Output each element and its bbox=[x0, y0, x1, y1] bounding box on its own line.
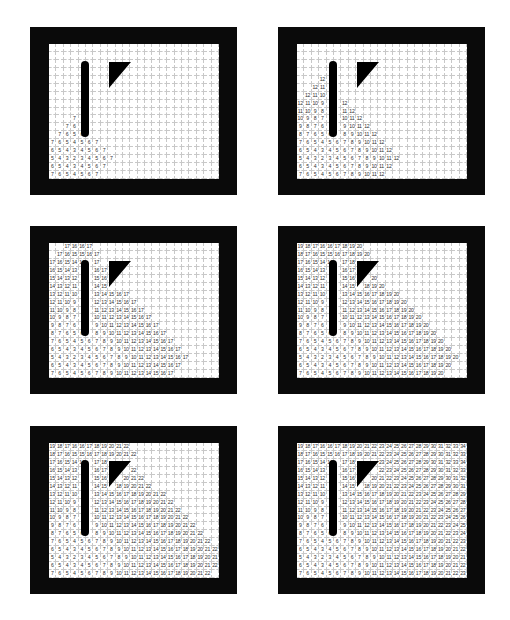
grid-cell bbox=[175, 499, 182, 507]
grid-cell: 6 bbox=[71, 322, 78, 330]
grid-cell: 10 bbox=[319, 291, 326, 299]
grid-cell bbox=[182, 131, 189, 139]
grid-cell bbox=[167, 443, 174, 451]
grid-cell: 11 bbox=[371, 538, 378, 546]
obstacle-bar bbox=[329, 61, 337, 137]
grid-cell: 5 bbox=[319, 330, 326, 338]
grid-cell bbox=[197, 52, 204, 60]
grid-cell bbox=[204, 483, 211, 491]
grid-cell: 16 bbox=[312, 251, 319, 259]
grid-cell bbox=[86, 44, 93, 52]
grid-cell bbox=[93, 115, 100, 123]
grid-cell: 22 bbox=[130, 451, 137, 459]
grid-cell: 10 bbox=[116, 338, 123, 346]
grid-cell: 19 bbox=[408, 314, 415, 322]
grid-cell: 11 bbox=[386, 354, 393, 362]
grid-cell bbox=[101, 259, 108, 267]
grid-cell: 19 bbox=[437, 562, 444, 570]
grid-cell bbox=[445, 131, 452, 139]
grid-cell: 7 bbox=[319, 514, 326, 522]
grid-cell bbox=[400, 139, 407, 147]
grid-cell bbox=[408, 251, 415, 259]
grid-cell: 14 bbox=[364, 307, 371, 315]
grid-cell bbox=[445, 60, 452, 68]
grid-cell bbox=[423, 163, 430, 171]
grid-cell: 19 bbox=[189, 562, 196, 570]
grid-cell bbox=[212, 475, 219, 483]
grid-cell: 6 bbox=[341, 163, 348, 171]
grid-cell bbox=[423, 283, 430, 291]
grid-cell bbox=[160, 131, 167, 139]
grid-cell bbox=[167, 100, 174, 108]
grid-cell: 6 bbox=[312, 530, 319, 538]
grid-cell bbox=[182, 243, 189, 251]
grid-cell bbox=[197, 68, 204, 76]
grid-cell bbox=[56, 68, 63, 76]
grid-cell bbox=[204, 362, 211, 370]
grid-cell bbox=[145, 283, 152, 291]
grid-cell: 10 bbox=[123, 346, 130, 354]
grid-cell: 18 bbox=[430, 562, 437, 570]
grid-cell bbox=[386, 139, 393, 147]
grid-cell bbox=[356, 44, 363, 52]
grid-cell bbox=[175, 108, 182, 116]
grid-cell bbox=[116, 52, 123, 60]
grid-cell bbox=[437, 275, 444, 283]
grid-cell: 8 bbox=[304, 322, 311, 330]
grid-cell: 9 bbox=[297, 522, 304, 530]
grid-cell: 13 bbox=[64, 475, 71, 483]
grid-cell bbox=[408, 52, 415, 60]
grid-cell bbox=[408, 123, 415, 131]
panel-top-right: 1212111211101211109121110981112109871011… bbox=[278, 27, 485, 195]
grid-cell: 20 bbox=[437, 338, 444, 346]
grid-cell bbox=[400, 115, 407, 123]
grid-cell: 17 bbox=[423, 346, 430, 354]
grid-cell bbox=[408, 267, 415, 275]
grid-cell bbox=[197, 467, 204, 475]
grid-cell: 15 bbox=[167, 554, 174, 562]
grid-cell bbox=[212, 443, 219, 451]
grid-cell bbox=[437, 314, 444, 322]
grid-cell: 29 bbox=[430, 467, 437, 475]
grid-cell bbox=[452, 84, 459, 92]
grid-cell: 10 bbox=[378, 354, 385, 362]
grid-cell bbox=[160, 115, 167, 123]
grid-cell: 16 bbox=[408, 538, 415, 546]
grid-cell bbox=[386, 283, 393, 291]
grid-cell: 3 bbox=[327, 155, 334, 163]
grid-cell bbox=[393, 267, 400, 275]
grid-cell: 16 bbox=[175, 354, 182, 362]
grid-cell: 6 bbox=[341, 362, 348, 370]
grid-cell bbox=[175, 491, 182, 499]
grid-cell: 16 bbox=[312, 451, 319, 459]
grid-cell bbox=[145, 291, 152, 299]
panel-middle-left: 1716161717161515161717161514141716151413… bbox=[30, 226, 237, 394]
grid-cell: 7 bbox=[341, 370, 348, 378]
grid-cell: 4 bbox=[312, 362, 319, 370]
grid-cell bbox=[130, 108, 137, 116]
grid-cell: 5 bbox=[79, 139, 86, 147]
grid-cell: 13 bbox=[101, 299, 108, 307]
grid-cell bbox=[212, 52, 219, 60]
grid-cell bbox=[145, 115, 152, 123]
grid-cell bbox=[116, 115, 123, 123]
grid-cell: 6 bbox=[93, 362, 100, 370]
grid-cell bbox=[327, 44, 334, 52]
grid-cell: 8 bbox=[297, 131, 304, 139]
grid-cell bbox=[160, 451, 167, 459]
grid-cell bbox=[49, 68, 56, 76]
grid-cell: 11 bbox=[371, 171, 378, 179]
grid-cell: 18 bbox=[349, 259, 356, 267]
grid-cell: 19 bbox=[386, 491, 393, 499]
grid-cell bbox=[145, 443, 152, 451]
grid-cell: 6 bbox=[56, 370, 63, 378]
grid-cell: 6 bbox=[86, 338, 93, 346]
grid-cell bbox=[197, 499, 204, 507]
grid-cell: 5 bbox=[64, 370, 71, 378]
grid-cell bbox=[437, 131, 444, 139]
grid-cell: 18 bbox=[167, 530, 174, 538]
grid-cell bbox=[130, 123, 137, 131]
grid-cell bbox=[152, 92, 159, 100]
grid-cell: 16 bbox=[408, 570, 415, 578]
grid-cell: 18 bbox=[130, 491, 137, 499]
